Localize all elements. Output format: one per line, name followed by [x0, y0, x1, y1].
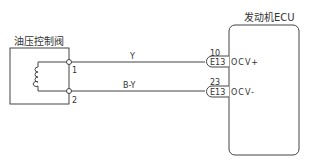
- wiring-diagram: 油压控制阀 1 2 Y B-Y 发动机ECU 10 E13 OCV+ 23 E1…: [0, 0, 317, 164]
- pin-2-label: 2: [72, 96, 77, 105]
- coil-icon: [33, 62, 69, 91]
- valve-box: [10, 48, 69, 104]
- wire-b-y-color-label: B-Y: [123, 81, 135, 90]
- valve-label: 油压控制阀: [14, 35, 64, 47]
- ocv-plus-label: OCV+: [231, 58, 259, 67]
- pin-1-label: 1: [72, 66, 77, 75]
- pin-2-terminal: [67, 89, 72, 94]
- ecu-label: 发动机ECU: [244, 11, 295, 23]
- ocv-minus-label: OCV-: [231, 88, 255, 97]
- wire-y-color-label: Y: [129, 52, 135, 61]
- connector-e13-label-2: E13: [210, 88, 225, 97]
- connector-e13-label-1: E13: [210, 58, 225, 67]
- pin-1-terminal: [67, 60, 72, 65]
